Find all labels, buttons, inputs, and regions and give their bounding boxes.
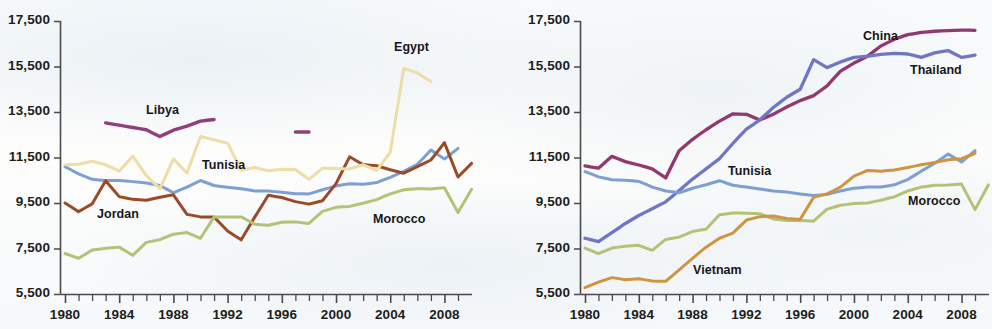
y-axis-tick-label: 17,500: [528, 12, 570, 27]
series-thailand: [585, 51, 975, 242]
x-axis-tick-label: 2008: [420, 307, 468, 322]
x-axis-tick-label: 1980: [41, 307, 89, 322]
x-axis-tick-label: 2004: [366, 307, 414, 322]
series-label-egypt: Egypt: [394, 40, 429, 54]
x-axis-tick-label: 1996: [776, 307, 824, 322]
x-axis-tick-label: 2000: [312, 307, 360, 322]
y-axis-tick-label: 15,500: [528, 58, 570, 73]
chart-panel-left: 5,5007,5009,50011,50013,50015,50017,5001…: [0, 0, 496, 329]
y-axis-tick-label: 11,500: [9, 149, 50, 164]
series-label-tunisia: Tunisia: [202, 158, 245, 172]
series-egypt: [65, 68, 431, 188]
y-axis-tick-label: 7,500: [536, 240, 570, 255]
x-axis-tick-label: 1984: [95, 307, 143, 322]
x-axis-tick-label: 1988: [149, 307, 197, 322]
y-axis-tick-label: 13,500: [8, 103, 50, 118]
series-label-thailand: Thailand: [910, 63, 962, 77]
y-axis-tick-label: 11,500: [529, 149, 570, 164]
x-axis-tick-label: 2000: [830, 307, 878, 322]
series-label-china: China: [863, 29, 898, 43]
y-axis-tick-label: 5,500: [16, 285, 50, 300]
series-label-tunisia: Tunisia: [728, 164, 771, 178]
y-axis-tick-label: 15,500: [8, 58, 50, 73]
x-axis-tick-label: 1984: [615, 307, 663, 322]
libya-main-segment: [106, 120, 214, 137]
y-axis-tick-label: 9,500: [536, 194, 570, 209]
y-axis-tick-label: 17,500: [8, 12, 50, 27]
series-label-jordan: Jordan: [97, 207, 139, 221]
x-axis-tick-label: 1996: [258, 307, 306, 322]
x-axis-tick-label: 2004: [884, 307, 932, 322]
chart-panel-right: 5,5007,5009,50011,50013,50015,50017,5001…: [496, 0, 992, 329]
line-egypt: [65, 68, 431, 188]
series-label-libya: Libya: [146, 103, 179, 117]
y-axis-tick-label: 9,500: [16, 194, 50, 209]
x-axis-tick-label: 1988: [669, 307, 717, 322]
x-axis-tick-label: 1992: [204, 307, 252, 322]
series-label-morocco: Morocco: [908, 194, 960, 208]
y-axis-tick-label: 7,500: [16, 240, 50, 255]
series-label-vietnam: Vietnam: [693, 263, 742, 277]
series-libya: [106, 120, 309, 137]
x-axis-tick-label: 1980: [561, 307, 609, 322]
x-axis-tick-label: 1992: [722, 307, 770, 322]
y-axis-tick-label: 13,500: [528, 103, 570, 118]
series-label-morocco: Morocco: [373, 212, 425, 226]
line-thailand: [585, 51, 975, 242]
y-axis-tick-label: 5,500: [536, 285, 570, 300]
x-axis-tick-label: 2008: [938, 307, 986, 322]
